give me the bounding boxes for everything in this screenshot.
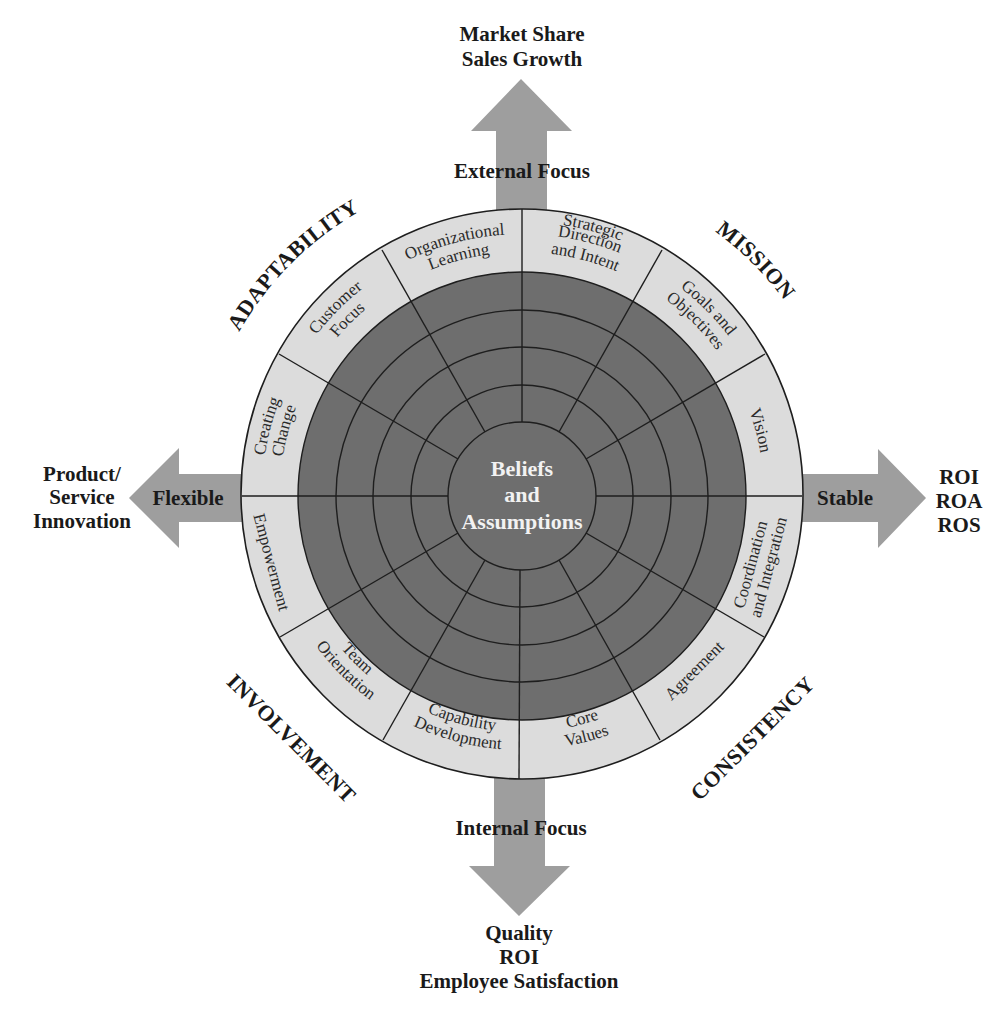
axis-stable: Stable <box>817 486 873 510</box>
center-line-1: Beliefs <box>491 456 554 481</box>
center-line-2: and <box>504 482 539 507</box>
culture-model-diagram: Beliefs and Assumptions Organizational L… <box>0 0 1000 1010</box>
axis-external-focus: External Focus <box>454 159 590 183</box>
outcome-right-2: ROA <box>936 489 984 513</box>
axis-internal-focus: Internal Focus <box>455 816 586 840</box>
quadrant-mission: MISSION <box>712 215 801 304</box>
outcome-bottom-3: Employee Satisfaction <box>420 969 619 993</box>
outcome-left-3: Innovation <box>33 509 131 533</box>
axis-flexible: Flexible <box>152 486 223 510</box>
outcome-bottom-1: Quality <box>485 921 553 945</box>
outcome-top-2: Sales Growth <box>462 47 583 71</box>
outcome-left-1: Product/ <box>43 462 122 486</box>
outcome-bottom-2: ROI <box>499 945 539 969</box>
outcome-right-1: ROI <box>939 465 979 489</box>
center-line-3: Assumptions <box>461 509 582 534</box>
outcome-left-2: Service <box>49 485 114 509</box>
arrow-down-icon <box>469 772 570 916</box>
outcome-top-1: Market Share <box>459 22 584 46</box>
arrow-up-icon <box>471 79 572 215</box>
outcome-right-3: ROS <box>937 513 980 537</box>
